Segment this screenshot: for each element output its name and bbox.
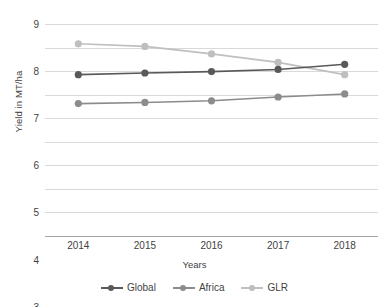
legend-label: Global <box>127 282 156 293</box>
y-axis-tick-label: 8 <box>33 66 39 77</box>
plot-area: 9876543210 <box>45 24 378 236</box>
data-point-africa-2014 <box>75 100 82 107</box>
y-axis-tick-label: 3 <box>33 301 39 307</box>
legend-label: Africa <box>199 282 225 293</box>
legend-item-glr[interactable]: GLR <box>241 282 288 293</box>
legend-marker-icon <box>241 283 263 293</box>
legend-item-global[interactable]: Global <box>101 282 156 293</box>
legend-item-africa[interactable]: Africa <box>173 282 225 293</box>
y-axis-tick-label: 5 <box>33 207 39 218</box>
data-point-global-2018 <box>341 61 348 68</box>
data-point-africa-2016 <box>208 97 215 104</box>
data-point-global-2014 <box>75 71 82 78</box>
data-point-glr-2018 <box>341 71 348 78</box>
chart-legend: GlobalAfricaGLR <box>0 282 389 293</box>
data-point-glr-2015 <box>141 43 148 50</box>
y-axis-tick-label: 9 <box>33 19 39 30</box>
legend-label: GLR <box>267 282 288 293</box>
data-point-africa-2015 <box>141 99 148 106</box>
data-point-africa-2017 <box>275 93 282 100</box>
series-lines-layer <box>45 24 378 236</box>
data-point-global-2016 <box>208 68 215 75</box>
y-axis-title: Yield in MT/ha <box>13 32 24 172</box>
data-point-glr-2016 <box>208 50 215 57</box>
y-axis-tick-label: 7 <box>33 113 39 124</box>
data-point-glr-2017 <box>275 59 282 66</box>
x-axis-title: Years <box>0 259 389 270</box>
data-point-global-2017 <box>275 66 282 73</box>
x-axis-line: 0 <box>45 236 378 237</box>
y-axis-tick-label: 6 <box>33 160 39 171</box>
legend-marker-icon <box>173 283 195 293</box>
line-chart: Yield in MT/ha 9876543210 20142015201620… <box>0 0 389 307</box>
x-axis-tick-label: 2018 <box>334 240 356 251</box>
x-axis-tick-label: 2017 <box>267 240 289 251</box>
data-point-glr-2014 <box>75 40 82 47</box>
legend-marker-icon <box>101 283 123 293</box>
data-point-global-2015 <box>141 69 148 76</box>
x-axis-tick-label: 2014 <box>67 240 89 251</box>
data-point-africa-2018 <box>341 90 348 97</box>
x-axis-tick-label: 2015 <box>134 240 156 251</box>
x-axis-tick-label: 2016 <box>200 240 222 251</box>
